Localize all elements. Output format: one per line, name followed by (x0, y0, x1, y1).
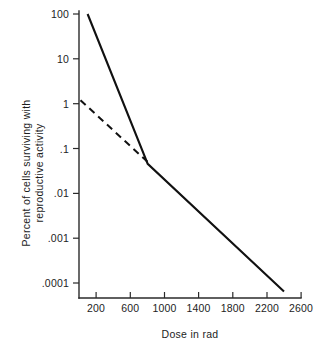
y-axis-title-line-2: reproductive activity (33, 123, 45, 223)
y-tick-label-2: 1 (63, 98, 69, 110)
y-tick-label-5: .001 (48, 232, 69, 244)
x-tick-label-6: 2600 (289, 302, 313, 314)
x-tick-label-0: 200 (87, 302, 105, 314)
y-tick-label-6: .0001 (42, 277, 69, 289)
x-tick-label-3: 1400 (187, 302, 211, 314)
x-tick-label-1: 600 (121, 302, 139, 314)
x-tick-label-4: 1800 (221, 302, 245, 314)
y-tick-label-3: .1 (60, 143, 69, 155)
x-tick-label-2: 1000 (152, 302, 176, 314)
y-tick-label-4: .01 (54, 187, 69, 199)
y-tick-label-0: 100 (51, 8, 69, 20)
x-tick-label-5: 2200 (255, 302, 279, 314)
y-axis-title-line-1: Percent of cells surviving with (20, 99, 32, 246)
survival-curve-figure: 100 10 1 .1 .01 .001 .0001 200 600 1000 … (0, 0, 324, 354)
y-tick-label-1: 10 (57, 53, 69, 65)
x-axis-title: Dose in rad (162, 328, 219, 340)
chart-canvas: 100 10 1 .1 .01 .001 .0001 200 600 1000 … (0, 0, 324, 354)
